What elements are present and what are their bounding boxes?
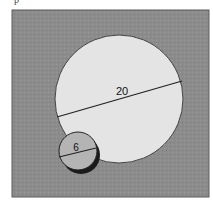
circles-diagram: 20 6 [0,0,213,206]
large-circle-label: 20 [116,85,128,97]
small-circle-label: 6 [73,142,79,153]
